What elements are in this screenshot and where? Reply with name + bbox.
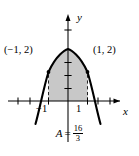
parabola-area-figure: x y (−1, 2) (1, 2) −1 1 A=163 (0, 0, 139, 156)
y-axis-label: y (77, 12, 82, 23)
area-fraction: 163 (73, 124, 84, 143)
x-axis-arrow (114, 99, 121, 104)
area-symbol: A (56, 127, 63, 139)
area-caption: A=163 (0, 124, 139, 143)
point-label-right: (1, 2) (93, 45, 116, 56)
area-fraction-denominator: 3 (73, 134, 84, 143)
x-tick-label-pos-one: 1 (76, 104, 81, 115)
y-axis-arrow (66, 14, 71, 21)
endpoint-dot-left (47, 70, 51, 74)
x-tick-label-neg-one: −1 (36, 104, 47, 115)
x-axis-label: x (123, 106, 128, 117)
endpoint-dot-right (86, 70, 90, 74)
point-label-left: (−1, 2) (4, 45, 33, 56)
area-equals-sign: = (65, 127, 71, 139)
